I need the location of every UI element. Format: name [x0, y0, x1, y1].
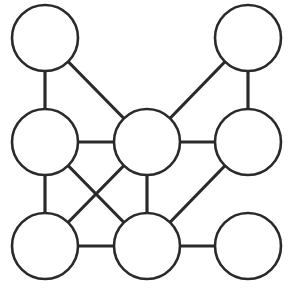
nodes-layer: [12, 5, 281, 279]
node-d: [114, 109, 180, 175]
node-e: [215, 109, 281, 175]
node-h: [215, 213, 281, 279]
node-b: [215, 5, 281, 71]
node-g: [114, 213, 180, 279]
graph-diagram: [0, 0, 292, 296]
node-a: [12, 5, 78, 71]
node-c: [12, 109, 78, 175]
node-f: [12, 213, 78, 279]
